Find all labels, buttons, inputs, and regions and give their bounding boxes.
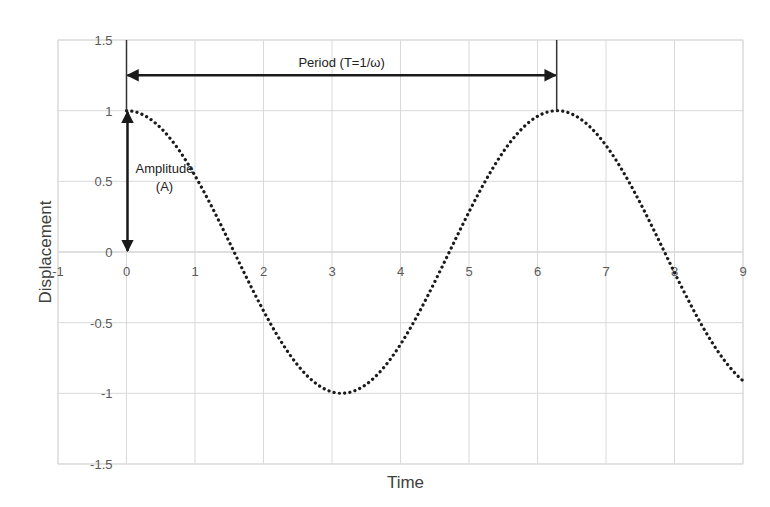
y-tick-label: 1 [105,104,112,119]
y-tick-label: -1.5 [90,457,112,472]
y-axis-title: Displacement [36,200,55,303]
grid [58,40,743,464]
x-tick-label: 6 [534,264,541,279]
annotations: Period (T=1/ω)Amplitude(A) [127,40,557,251]
x-tick-label: 7 [602,264,609,279]
x-tick-labels: -10123456789 [52,264,746,279]
x-axis-title: Time [387,473,424,492]
y-tick-label: 1.5 [94,33,112,48]
x-tick-label: 4 [397,264,404,279]
chart: 1.510.50-0.5-1-1.5 -10123456789 Period (… [0,0,770,507]
x-tick-label: 9 [739,264,746,279]
y-tick-label: -0.5 [90,316,112,331]
period-label: Period (T=1/ω) [298,55,384,70]
x-tick-label: 2 [260,264,267,279]
x-tick-label: 3 [328,264,335,279]
amplitude-label: (A) [156,179,173,194]
x-tick-label: 0 [123,264,130,279]
x-tick-label: 5 [465,264,472,279]
y-tick-label: 0 [105,245,112,260]
y-tick-label: -1 [101,386,113,401]
x-tick-label: 1 [191,264,198,279]
amplitude-label: Amplitude [136,161,194,176]
y-tick-label: 0.5 [94,174,112,189]
